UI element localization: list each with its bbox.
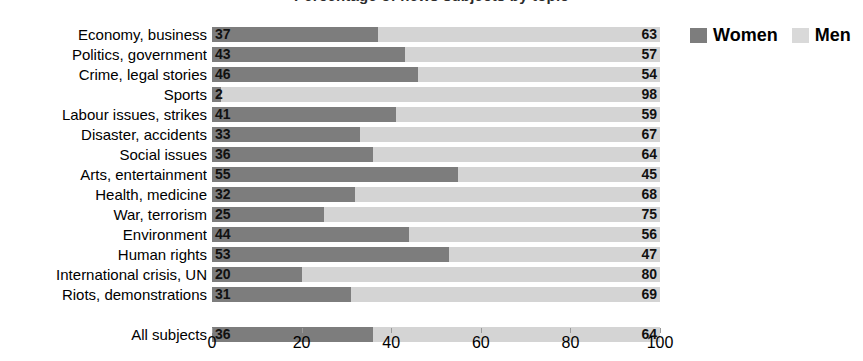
- bar-value-men: 59: [641, 106, 657, 122]
- bar-segment-women: [212, 127, 360, 142]
- axis-tick-mark: [302, 328, 303, 333]
- bar-row: 4456: [212, 225, 660, 245]
- bar-segment-women: [212, 27, 378, 42]
- bar-segment-women: [212, 187, 355, 202]
- bar-row: 5347: [212, 245, 660, 265]
- bar-row: 3664: [212, 145, 660, 165]
- axis-tick-mark: [481, 328, 482, 333]
- stacked-bar: [212, 287, 660, 302]
- stacked-bar: [212, 147, 660, 162]
- stacked-bar: [212, 187, 660, 202]
- bar-value-women: 32: [215, 186, 231, 202]
- category-label: Sports: [0, 85, 207, 105]
- bar-segment-women: [212, 147, 373, 162]
- axis-tick-mark: [212, 328, 213, 333]
- bar-row: 4159: [212, 105, 660, 125]
- bar-segment-women: [212, 47, 405, 62]
- category-label: Labour issues, strikes: [0, 105, 207, 125]
- bar-segment-women: [212, 67, 418, 82]
- bar-row: 2575: [212, 205, 660, 225]
- bar-row: 3169: [212, 285, 660, 305]
- bar-value-men: 45: [641, 166, 657, 182]
- stacked-bar: [212, 27, 660, 42]
- category-label-all-subjects: All subjects: [0, 325, 207, 345]
- category-label: Disaster, accidents: [0, 125, 207, 145]
- bar-value-men: 68: [641, 186, 657, 202]
- bar-value-women: 33: [215, 126, 231, 142]
- category-label: Health, medicine: [0, 185, 207, 205]
- legend-item-men[interactable]: Men: [792, 26, 851, 44]
- axis-tick-label: 0: [208, 334, 217, 352]
- bar-value-women: 55: [215, 166, 231, 182]
- category-label: War, terrorism: [0, 205, 207, 225]
- chart-legend: WomenMen: [690, 26, 851, 44]
- category-label: International crisis, UN: [0, 265, 207, 285]
- stacked-bar: [212, 107, 660, 122]
- bar-row: 2080: [212, 265, 660, 285]
- axis-tick-label: 100: [647, 334, 674, 352]
- category-label: Riots, demonstrations: [0, 285, 207, 305]
- bar-row: 4654: [212, 65, 660, 85]
- bar-row: 5545: [212, 165, 660, 185]
- bar-value-men: 80: [641, 266, 657, 282]
- bar-row: 298: [212, 85, 660, 105]
- bar-value-women: 2: [215, 86, 223, 102]
- bar-value-women: 25: [215, 206, 231, 222]
- stacked-bar: [212, 227, 660, 242]
- axis-tick-label: 60: [472, 334, 490, 352]
- bar-segment-women: [212, 287, 351, 302]
- legend-label: Women: [713, 26, 778, 44]
- category-label: Economy, business: [0, 25, 207, 45]
- bar-value-women: 20: [215, 266, 231, 282]
- bar-value-men: 69: [641, 286, 657, 302]
- category-label: Human rights: [0, 245, 207, 265]
- legend-swatch-women-icon: [690, 28, 707, 43]
- bar-segment-women: [212, 227, 409, 242]
- bar-value-men: 63: [641, 26, 657, 42]
- bar-segment-women: [212, 247, 449, 262]
- category-label: Politics, government: [0, 45, 207, 65]
- category-label: Environment: [0, 225, 207, 245]
- stacked-bar-chart: Percentage of news subjects by topic Eco…: [0, 0, 863, 361]
- axis-tick-label: 80: [561, 334, 579, 352]
- stacked-bar: [212, 127, 660, 142]
- stacked-bar: [212, 87, 660, 102]
- bar-value-men: 47: [641, 246, 657, 262]
- bar-segment-women: [212, 107, 396, 122]
- stacked-bar: [212, 167, 660, 182]
- label-spacer: [0, 305, 207, 325]
- legend-label: Men: [815, 26, 851, 44]
- bar-value-women: 46: [215, 66, 231, 82]
- stacked-bar: [212, 247, 660, 262]
- legend-item-women[interactable]: Women: [690, 26, 778, 44]
- axis-tick-label: 20: [293, 334, 311, 352]
- chart-title: Percentage of news subjects by topic: [0, 0, 863, 5]
- bar-row: 3268: [212, 185, 660, 205]
- axis-tick-mark: [660, 328, 661, 333]
- bar-value-women: 44: [215, 226, 231, 242]
- bar-value-men: 56: [641, 226, 657, 242]
- category-label-list: Economy, businessPolitics, governmentCri…: [0, 25, 207, 345]
- x-axis: 020406080100: [212, 334, 660, 358]
- axis-tick-mark: [570, 328, 571, 333]
- bar-value-women: 36: [215, 146, 231, 162]
- bar-value-men: 57: [641, 46, 657, 62]
- bar-value-women: 31: [215, 286, 231, 302]
- bar-value-women: 37: [215, 26, 231, 42]
- plot-area: 3763435746542984159336736645545326825754…: [212, 25, 660, 345]
- stacked-bar: [212, 207, 660, 222]
- stacked-bar: [212, 47, 660, 62]
- bar-value-women: 41: [215, 106, 231, 122]
- bar-value-women: 53: [215, 246, 231, 262]
- category-label: Arts, entertainment: [0, 165, 207, 185]
- axis-tick-label: 40: [382, 334, 400, 352]
- bar-value-men: 54: [641, 66, 657, 82]
- category-label: Social issues: [0, 145, 207, 165]
- bar-value-men: 75: [641, 206, 657, 222]
- row-spacer: [212, 305, 660, 325]
- stacked-bar: [212, 67, 660, 82]
- axis-tick-mark: [391, 328, 392, 333]
- bar-segment-women: [212, 167, 458, 182]
- bar-value-men: 67: [641, 126, 657, 142]
- bar-value-men: 64: [641, 146, 657, 162]
